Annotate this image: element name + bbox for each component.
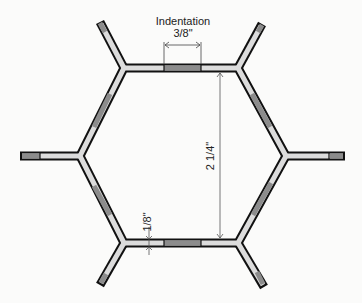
- hexagon-diagram: Indentation 3/8" 2 1/4" 1/8": [0, 0, 362, 303]
- height-dimension: [217, 73, 223, 238]
- indentation-dimension: [164, 42, 201, 64]
- hexagon-walls: [20, 22, 345, 287]
- height-value: 2 1/4": [204, 142, 216, 170]
- wall-thickness-value: 1/8": [141, 212, 153, 231]
- indentation-label: Indentation: [156, 15, 210, 27]
- indentation-value: 3/8": [173, 27, 192, 39]
